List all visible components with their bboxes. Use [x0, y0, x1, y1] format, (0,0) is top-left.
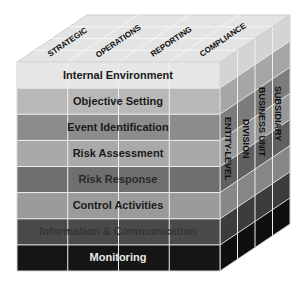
coso-cube-diagram: STRATEGIC OPERATIONS REPORTING COMPLIANC…	[0, 0, 304, 281]
component-label-risk-response: Risk Response	[79, 173, 158, 185]
unit-label-business-unit: BUSINESS UNIT	[257, 87, 267, 157]
front-face: Internal Environment Objective Setting E…	[17, 62, 220, 271]
unit-label-division: DIVISION	[241, 119, 251, 159]
component-label-monitoring: Monitoring	[90, 251, 147, 263]
component-label-risk-assessment: Risk Assessment	[73, 147, 164, 159]
component-label-objective-setting: Objective Setting	[73, 95, 163, 107]
component-label-internal-environment: Internal Environment	[63, 69, 173, 81]
component-label-control-activities: Control Activities	[73, 199, 164, 211]
component-label-information-communication: Information & Communication	[39, 225, 197, 237]
unit-label-subsidiary: SUBSIDIARY	[273, 86, 283, 141]
unit-label-entity-level: ENTITY-LEVEL	[223, 117, 233, 181]
component-label-event-identification: Event Identification	[67, 121, 169, 133]
